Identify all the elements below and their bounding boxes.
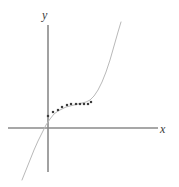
data-point-marker [83, 103, 85, 105]
cubic-curve [22, 22, 121, 180]
x-axis-label: x [160, 123, 165, 135]
data-point-marker [57, 109, 59, 111]
data-point-marker [61, 106, 63, 108]
curve-group [22, 22, 121, 180]
y-axis-label: y [42, 9, 47, 21]
data-point-marker [47, 115, 49, 117]
graph-figure: y x [0, 0, 179, 187]
data-point-marker [90, 101, 92, 103]
data-point-marker [66, 104, 68, 106]
axes-group [8, 25, 158, 172]
data-point-marker [87, 103, 89, 105]
data-point-marker [70, 103, 72, 105]
plot-canvas [0, 0, 179, 187]
data-point-marker [79, 103, 81, 105]
data-point-marker [52, 111, 54, 113]
data-point-marker [75, 103, 77, 105]
